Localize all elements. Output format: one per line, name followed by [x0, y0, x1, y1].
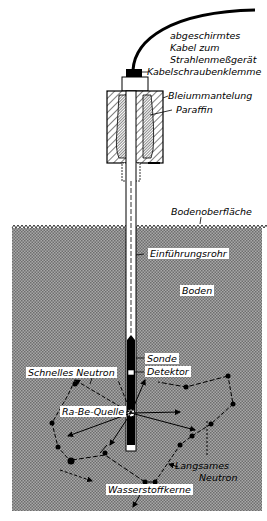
label-detector: Detektor [145, 366, 191, 377]
label-fast-neutron: Schnelles Neutron [26, 367, 117, 378]
label-slow-neutron-2: Neutron [199, 472, 237, 483]
probe [127, 335, 135, 445]
label-cable-2: Kabel zum [170, 42, 220, 53]
label-paraffin: Paraffin [176, 104, 213, 115]
label-soil: Boden [180, 285, 214, 296]
label-cable-3: Strahlenmeßgerät [170, 54, 256, 65]
label-probe: Sonde [145, 353, 179, 364]
neutron-probe-diagram [0, 0, 267, 521]
label-cable-clamp: Kabelschraubenklemme [147, 66, 261, 77]
label-ground-surface: Bodenoberfläche [171, 206, 252, 217]
label-access-tube: Einführungsrohr [148, 248, 229, 259]
label-hydrogen-nuclei: Wasserstoffkerne [106, 484, 193, 495]
label-cable-1: abgeschirmtes [170, 30, 240, 41]
label-lead-shield: Bleiummantelung [168, 90, 252, 101]
label-slow-neutron-1: Langsames [175, 460, 229, 471]
cable-clamp [126, 69, 142, 77]
label-source: Ra-Be-Quelle [60, 406, 126, 417]
